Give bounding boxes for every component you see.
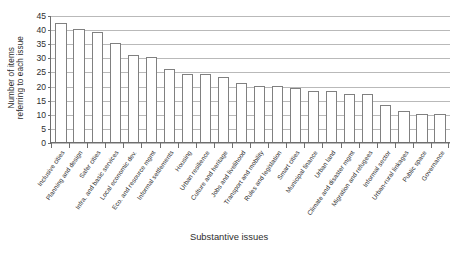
plot-area: 051015202530354045: [50, 16, 450, 143]
bar[interactable]: [55, 23, 66, 142]
x-axis-tick-mark: [359, 143, 360, 148]
bar-slot: [232, 16, 250, 142]
x-axis-tick-mark: [322, 143, 323, 148]
x-axis-tick-mark: [286, 143, 287, 148]
y-axis-tick-label: 5: [41, 124, 46, 134]
bar-slot: [269, 16, 287, 142]
bar-slot: [251, 16, 269, 142]
x-tick-slot: [178, 143, 196, 148]
x-tick-slot: [105, 143, 123, 148]
bar-slot: [377, 16, 395, 142]
bar-slot: [395, 16, 413, 142]
bar-slot: [341, 16, 359, 142]
x-tick-slot: [141, 143, 159, 148]
x-tick-slot: [51, 143, 69, 148]
x-axis-tick-mark: [141, 143, 142, 148]
bar[interactable]: [200, 74, 211, 142]
bar[interactable]: [362, 94, 373, 142]
bar[interactable]: [73, 29, 84, 142]
y-axis-tick-label: 20: [36, 82, 46, 92]
x-axis-tick-mark: [250, 143, 251, 148]
bar[interactable]: [308, 91, 319, 142]
x-axis-tick-mark: [395, 143, 396, 148]
bar[interactable]: [344, 94, 355, 142]
x-axis-tick-mark: [51, 143, 52, 148]
bar-slot: [305, 16, 323, 142]
y-axis-tick-label: 25: [36, 67, 46, 77]
bar-slot: [124, 16, 142, 142]
y-axis-tick-label: 0: [41, 138, 46, 148]
bar[interactable]: [146, 57, 157, 142]
bar[interactable]: [416, 114, 427, 142]
bar[interactable]: [290, 88, 301, 142]
bar-slot: [287, 16, 305, 142]
bar-slot: [323, 16, 341, 142]
y-axis-tick-label: 15: [36, 96, 46, 106]
x-axis-tick-mark: [87, 143, 88, 148]
bar[interactable]: [164, 69, 175, 142]
x-label-slot: Governance: [431, 149, 449, 219]
x-label-slot: Urban-rural linkages: [395, 149, 413, 219]
x-axis-title: Substantive issues: [0, 231, 458, 242]
x-tick-slot: [87, 143, 105, 148]
x-tick-slot: [268, 143, 286, 148]
x-tick-slot: [286, 143, 304, 148]
x-tick-slot: [413, 143, 431, 148]
x-axis-tick-mark: [304, 143, 305, 148]
x-label-slot: Rules and legislation: [268, 149, 286, 219]
bar-chart: Number of items referring to each issue …: [0, 0, 458, 255]
x-axis-category-labels: Inclusive citiesPlanning and designSafer…: [50, 149, 450, 219]
x-tick-slot: [232, 143, 250, 148]
x-tick-slot: [359, 143, 377, 148]
x-tick-slot: [160, 143, 178, 148]
y-axis-tick-label: 40: [36, 25, 46, 35]
x-tick-slot: [196, 143, 214, 148]
x-tick-slot: [377, 143, 395, 148]
bar-series: [51, 16, 450, 142]
x-tick-slot: [214, 143, 232, 148]
bar[interactable]: [128, 55, 139, 142]
y-axis-tick-label: 30: [36, 53, 46, 63]
x-axis-tick-mark: [160, 143, 161, 148]
x-axis-tick-mark: [268, 143, 269, 148]
x-tick-slot: [395, 143, 413, 148]
x-tick-slot: [123, 143, 141, 148]
bar[interactable]: [380, 105, 391, 142]
bar[interactable]: [272, 86, 283, 142]
bar[interactable]: [218, 77, 229, 142]
bar-slot: [214, 16, 232, 142]
bar[interactable]: [434, 114, 445, 142]
x-axis-tick-mark: [431, 143, 432, 148]
x-label-slot: Informal settlements: [160, 149, 178, 219]
y-axis-title-line-2: referring to each issue: [16, 36, 25, 119]
x-tick-slot: [341, 143, 359, 148]
bar[interactable]: [398, 111, 409, 142]
bar-slot: [142, 16, 160, 142]
bar[interactable]: [236, 83, 247, 142]
x-axis-tick-mark: [232, 143, 233, 148]
plot-wrap: 051015202530354045: [50, 16, 450, 143]
y-axis-tick-label: 45: [36, 11, 46, 21]
x-axis-tick-mark: [123, 143, 124, 148]
bar[interactable]: [182, 74, 193, 142]
bar[interactable]: [326, 91, 337, 142]
x-axis-tick-mark: [341, 143, 342, 148]
x-tick-slot: [250, 143, 268, 148]
x-tick-slot: [69, 143, 87, 148]
bar[interactable]: [92, 32, 103, 142]
x-axis-tick-mark: [214, 143, 215, 148]
bar[interactable]: [254, 86, 265, 142]
x-axis-tick-mark: [413, 143, 414, 148]
bar-slot: [52, 16, 70, 142]
x-axis-tick-mark: [105, 143, 106, 148]
y-axis-title: Number of items referring to each issue: [2, 10, 30, 146]
x-label-slot: Public space: [413, 149, 431, 219]
bar[interactable]: [110, 43, 121, 142]
bar-slot: [178, 16, 196, 142]
y-axis-tick-label: 35: [36, 39, 46, 49]
x-axis-tick-mark: [448, 143, 449, 148]
bar-slot: [413, 16, 431, 142]
x-axis-tick-mark: [196, 143, 197, 148]
y-axis-title-line-1: Number of items: [7, 47, 16, 109]
bar-slot: [106, 16, 124, 142]
